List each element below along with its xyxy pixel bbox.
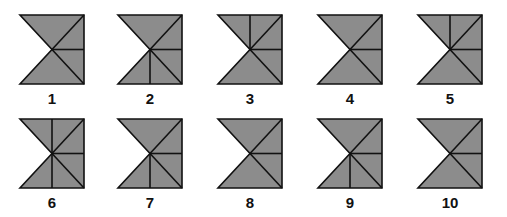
notched-square-shape xyxy=(110,116,190,196)
notched-square-shape xyxy=(110,12,190,92)
notched-square-shape xyxy=(310,12,390,92)
figure-label: 2 xyxy=(110,90,190,107)
figure-4: 4 xyxy=(310,12,390,110)
figure-7: 7 xyxy=(110,116,190,214)
notched-square-shape xyxy=(210,12,290,92)
notched-square-shape xyxy=(410,12,490,92)
figure-10: 10 xyxy=(410,116,490,214)
figure-2: 2 xyxy=(110,12,190,110)
figure-label: 5 xyxy=(410,90,490,107)
figure-9: 9 xyxy=(310,116,390,214)
figure-label: 4 xyxy=(310,90,390,107)
notched-square-shape xyxy=(410,116,490,196)
figure-label: 7 xyxy=(110,194,190,211)
notched-square-shape xyxy=(12,12,92,92)
figure-8: 8 xyxy=(210,116,290,214)
figure-label: 10 xyxy=(410,194,490,211)
figure-label: 8 xyxy=(210,194,290,211)
figure-1: 1 xyxy=(12,12,92,110)
notched-square-shape xyxy=(12,116,92,196)
notched-square-shape xyxy=(210,116,290,196)
figure-label: 1 xyxy=(12,90,92,107)
figure-5: 5 xyxy=(410,12,490,110)
figure-label: 3 xyxy=(210,90,290,107)
figure-3: 3 xyxy=(210,12,290,110)
figure-label: 6 xyxy=(12,194,92,211)
notched-square-shape xyxy=(310,116,390,196)
figure-6: 6 xyxy=(12,116,92,214)
figure-label: 9 xyxy=(310,194,390,211)
